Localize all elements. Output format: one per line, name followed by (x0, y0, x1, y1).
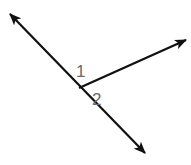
line (10, 14, 145, 153)
angle-1-label: 1 (76, 62, 85, 81)
angle-diagram: 1 2 (0, 0, 191, 165)
angle-2-label: 2 (92, 90, 101, 109)
ray (79, 40, 186, 88)
